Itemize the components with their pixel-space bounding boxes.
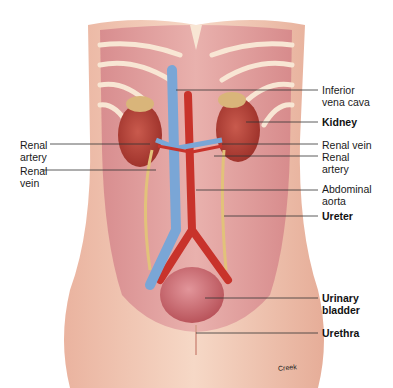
label-line: artery bbox=[322, 163, 349, 175]
label-line: Renal bbox=[20, 139, 47, 151]
label-kidney: Kidney bbox=[322, 116, 357, 128]
label-line: Urinary bbox=[322, 292, 360, 304]
label-urinary-bladder: Urinary bladder bbox=[322, 292, 360, 316]
label-line: Kidney bbox=[322, 116, 357, 128]
label-line: Inferior bbox=[322, 84, 370, 96]
label-renal-artery-right: Renal artery bbox=[322, 151, 349, 175]
label-renal-vein-left: Renal vein bbox=[20, 165, 47, 189]
label-renal-vein-right: Renal vein bbox=[322, 139, 372, 151]
label-line: vena cava bbox=[322, 96, 370, 108]
label-line: artery bbox=[20, 151, 47, 163]
label-line: Renal vein bbox=[322, 139, 372, 151]
kidney-left bbox=[118, 103, 162, 167]
label-renal-artery-left: Renal artery bbox=[20, 139, 47, 163]
label-line: bladder bbox=[322, 304, 360, 316]
label-line: Renal bbox=[20, 165, 47, 177]
label-urethra: Urethra bbox=[322, 327, 359, 339]
label-ureter: Ureter bbox=[322, 210, 353, 222]
label-abdominal-aorta: Abdominal aorta bbox=[322, 183, 372, 207]
label-inferior-vena-cava: Inferior vena cava bbox=[322, 84, 370, 108]
adrenal-right bbox=[218, 92, 246, 108]
adrenal-left bbox=[126, 96, 154, 112]
label-line: Urethra bbox=[322, 327, 359, 339]
label-line: Renal bbox=[322, 151, 349, 163]
label-line: Abdominal bbox=[322, 183, 372, 195]
label-line: Ureter bbox=[322, 210, 353, 222]
label-line: vein bbox=[20, 177, 47, 189]
label-line: aorta bbox=[322, 195, 372, 207]
urinary-bladder bbox=[160, 267, 224, 323]
